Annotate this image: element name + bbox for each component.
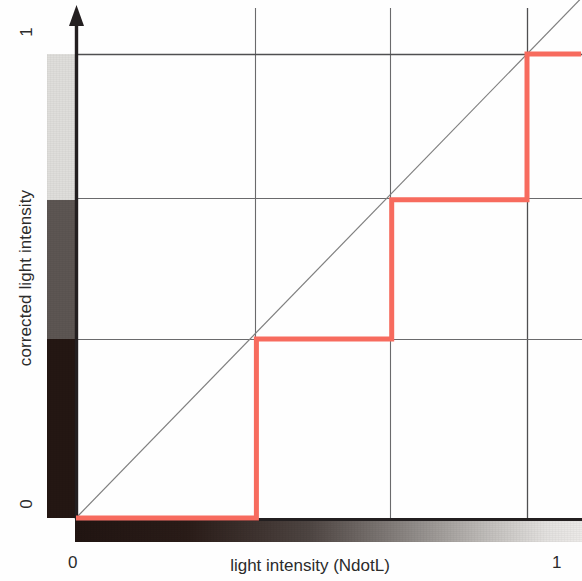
identity-reference-line — [76, 0, 581, 518]
step-curve-corrected-intensity — [76, 54, 581, 518]
arrow-up-icon — [69, 5, 84, 26]
y-axis-line — [69, 5, 84, 519]
y-tick-label-0: 0 — [17, 499, 37, 508]
grid-lines-horizontal — [75, 55, 582, 340]
y-tick-label-1: 1 — [17, 27, 37, 36]
plot-area — [0, 0, 582, 581]
chart-figure: corrected light intensity light intensit… — [0, 0, 582, 581]
y-axis-title: corrected light intensity — [16, 148, 36, 408]
x-tick-label-1: 1 — [552, 553, 561, 573]
x-axis-title: light intensity (NdotL) — [120, 556, 500, 576]
x-tick-label-0: 0 — [68, 553, 77, 573]
